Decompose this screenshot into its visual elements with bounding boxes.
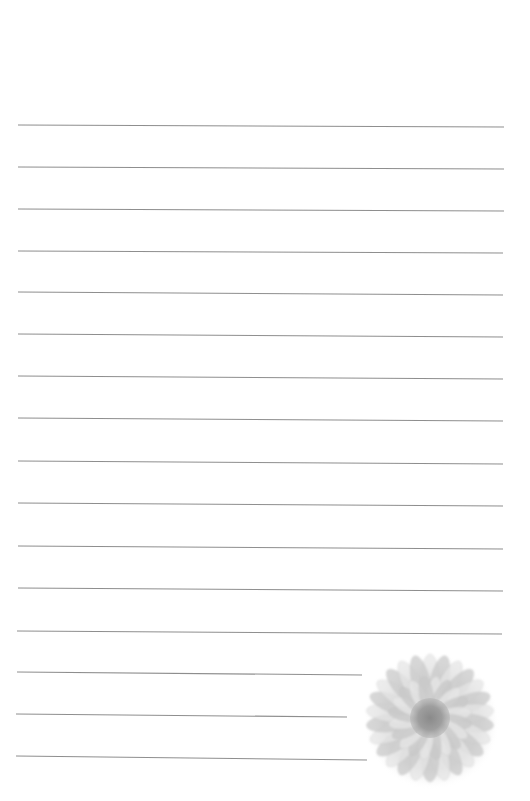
ruled-line bbox=[18, 546, 503, 549]
ruled-line bbox=[17, 631, 502, 634]
ruled-line bbox=[18, 251, 503, 253]
ruled-line bbox=[16, 714, 347, 717]
ruled-line bbox=[18, 292, 503, 295]
ruled-line bbox=[18, 334, 503, 337]
lined-paper bbox=[0, 0, 530, 801]
ruled-line bbox=[18, 209, 504, 211]
ruled-line bbox=[18, 461, 503, 464]
ruled-line bbox=[18, 167, 504, 169]
ruled-line bbox=[17, 672, 362, 675]
ruled-line bbox=[18, 125, 504, 127]
ruled-line bbox=[18, 418, 503, 421]
gerbera-flower-icon bbox=[362, 652, 507, 794]
ruled-line bbox=[16, 756, 367, 760]
ruled-line bbox=[18, 588, 503, 591]
ruled-line bbox=[18, 376, 503, 379]
ruled-line bbox=[18, 503, 503, 506]
